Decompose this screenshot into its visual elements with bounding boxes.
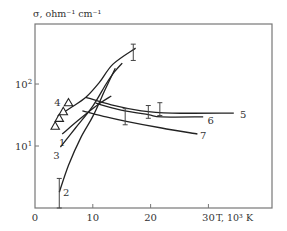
y-tick-label: 102 (15, 78, 32, 90)
y-axis-title: σ, ohm⁻¹ cm⁻¹ (33, 8, 102, 19)
error-bar (57, 178, 62, 208)
triangle-marker (51, 122, 59, 129)
triangle-marker (64, 99, 72, 106)
series-curve-2 (59, 68, 115, 192)
error-bar (131, 44, 136, 60)
x-axis-title: T, 10³ K (216, 212, 254, 223)
x-tick-label: 30 (202, 212, 215, 223)
x-tick-label: 10 (86, 212, 99, 223)
series-label-5: 5 (240, 109, 246, 120)
y-tick-exponent: 2 (28, 78, 32, 86)
series-label-3: 3 (53, 150, 59, 161)
x-tick-label: 0 (32, 212, 38, 223)
series-label-2: 2 (63, 187, 69, 198)
series-curve-7 (82, 111, 197, 134)
y-tick-label: 101 (15, 140, 32, 152)
series-label-7: 7 (200, 130, 206, 141)
y-tick-exponent: 1 (28, 140, 32, 148)
series-label-4: 4 (54, 97, 60, 108)
series-label-6: 6 (208, 115, 214, 126)
chart: σ, ohm⁻¹ cm⁻¹ 0102030 101102 T, 10³ K 41… (0, 0, 287, 231)
error-bar (157, 103, 162, 116)
x-tick-label: 20 (144, 212, 157, 223)
series-layer: 4132567 (53, 48, 246, 198)
